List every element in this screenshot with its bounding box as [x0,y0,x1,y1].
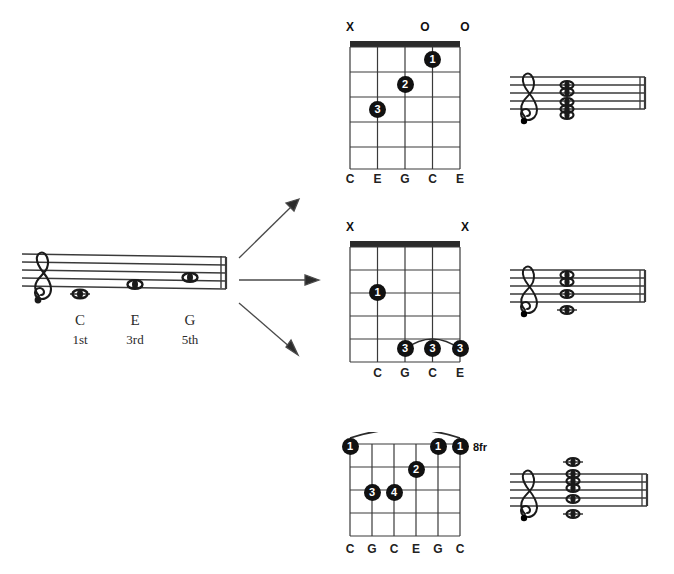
finger-dot-1[interactable]: 1 [369,284,386,301]
chord-note-heads [561,81,574,119]
string-note-3: G [398,172,412,186]
nut [350,241,460,247]
stave-mid-c [505,258,655,333]
stave-barre-c-svg [505,452,660,542]
string-note-4: E [409,542,423,556]
finger-dot-3[interactable]: 3 [364,484,381,501]
string-note-1: C [343,542,357,556]
source-note-name-2: G [170,312,210,329]
staff-lines [22,254,226,289]
string-note-2: E [371,172,385,186]
stave-open-c [505,65,655,135]
fret-position-label: 8fr [473,441,487,453]
string-note-3: G [398,366,412,380]
finger-dot-3c[interactable]: 3 [452,340,469,357]
arrow-to-mid-c-voicing [239,275,319,285]
finger-dot-3a[interactable]: 3 [397,340,414,357]
string-marker-1: X [343,220,357,234]
ledger-note-below [557,306,577,314]
string-marker-5: X [458,220,472,234]
source-note-degree-0: 1st [60,332,100,348]
string-note-5: E [453,172,467,186]
finger-dot-2[interactable]: 2 [408,461,425,478]
string-marker-1: X [343,20,357,34]
string-marker-4: O [418,20,432,34]
note-head-c [70,290,90,299]
string-note-3: C [387,542,401,556]
source-note-name-0: C [60,312,100,329]
finger-dot-4[interactable]: 4 [386,484,403,501]
source-staff: C 1st E 3rd G 5th [18,240,238,352]
source-note-name-1: E [115,312,155,329]
finger-dot-2[interactable]: 2 [397,76,414,93]
chord-diagram-open-c[interactable]: X O O 1 2 3 C E G C E [345,20,485,180]
finger-dot-1b[interactable]: 1 [430,438,447,455]
arrow-to-open-c-voicing [239,199,299,258]
string-note-5: G [431,542,445,556]
finger-dot-1c[interactable]: 1 [452,438,469,455]
fretboard-grid-open-c [345,36,485,176]
ledger-note-above [563,458,583,466]
nut [350,41,460,47]
finger-dot-1[interactable]: 1 [424,51,441,68]
stave-mid-c-svg [505,258,655,333]
string-note-1: C [343,172,357,186]
string-note-2: C [371,366,385,380]
finger-dot-3[interactable]: 3 [369,101,386,118]
finger-dot-3b[interactable]: 3 [424,340,441,357]
barre-arc [350,432,460,438]
chord-diagram-mid-c[interactable]: X X 1 3 3 3 C G C E [345,220,485,375]
note-head-e [128,280,143,289]
arrows-svg [225,185,345,365]
finger-dot-1a[interactable]: 1 [342,438,359,455]
source-note-degree-1: 3rd [115,332,155,348]
string-note-6: C [453,542,467,556]
ledger-note-below [563,510,583,518]
chord-note-heads [563,458,583,518]
string-note-4: C [426,172,440,186]
string-marker-5: O [458,20,472,34]
treble-clef [521,267,537,318]
note-head-g [183,273,198,282]
arrow-to-barre-c-voicing [239,303,298,355]
treble-clef [521,74,537,125]
treble-clef [521,471,537,522]
chord-diagram-barre-c-8fr[interactable]: 1 1 1 2 3 4 8fr C G C E G C [345,420,510,565]
arrow-group [225,185,345,365]
stave-barre-c [505,452,660,542]
source-note-degree-2: 5th [170,332,210,348]
string-note-2: G [365,542,379,556]
stave-open-c-svg [505,65,655,135]
string-note-5: E [453,366,467,380]
note-heads [70,273,198,298]
string-lines [350,47,460,169]
string-note-4: C [426,366,440,380]
